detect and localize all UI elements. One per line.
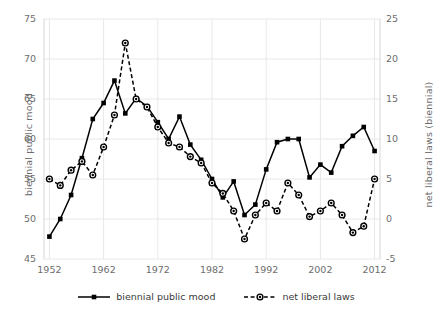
legend-label: biennial public mood bbox=[116, 291, 215, 302]
solid-line-square-icon bbox=[77, 292, 111, 302]
gridlines bbox=[44, 19, 380, 259]
chart-legend: biennial public moodnet liberal laws bbox=[0, 291, 432, 302]
dashed-line-circle-icon bbox=[243, 292, 277, 302]
legend-item-1[interactable]: biennial public mood bbox=[77, 291, 215, 302]
legend-label: net liberal laws bbox=[282, 291, 354, 302]
legend-item-2[interactable]: net liberal laws bbox=[243, 291, 354, 302]
